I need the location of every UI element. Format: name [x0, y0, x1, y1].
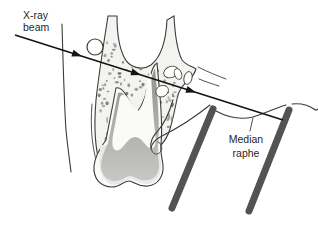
nasal-floor-line-upper — [198, 67, 226, 79]
median-raphe-label: Median raphe — [229, 133, 264, 159]
median-raphe-label-line1: Median — [229, 133, 264, 145]
xray-beam-label-line2: beam — [23, 21, 50, 33]
palate-curves — [151, 100, 318, 154]
xray-beam-label-line1: X-ray — [23, 9, 49, 21]
palatal-vault-curve-right — [216, 105, 286, 118]
beam-arrowhead-1 — [71, 50, 83, 60]
diagram-canvas: X-ray beam Median raphe — [0, 0, 318, 227]
kidney-shape — [156, 85, 169, 96]
rod-left — [172, 109, 213, 208]
xray-beam-label: X-ray beam — [23, 9, 50, 33]
rods — [172, 109, 289, 211]
median-raphe-leader-line — [250, 118, 253, 131]
palate-curve-far-right — [292, 104, 318, 110]
median-raphe-label-line2: raphe — [233, 147, 260, 159]
small-circle-marker — [87, 39, 103, 55]
beam-arrowhead-3 — [185, 86, 197, 96]
dental-xray-diagram: X-ray beam Median raphe — [0, 0, 318, 227]
nasal-floor-line-lower — [199, 79, 219, 86]
cheek-outline — [62, 24, 71, 172]
rod-right — [249, 110, 289, 211]
